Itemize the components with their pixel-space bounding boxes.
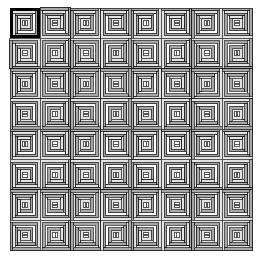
log-cabin-block[interactable] bbox=[101, 129, 131, 159]
log-cabin-block[interactable] bbox=[222, 220, 252, 250]
log-cabin-block[interactable] bbox=[10, 69, 40, 99]
log-cabin-block[interactable] bbox=[131, 220, 161, 250]
log-cabin-block[interactable] bbox=[10, 160, 40, 190]
log-cabin-block[interactable] bbox=[40, 190, 70, 220]
log-cabin-block[interactable] bbox=[10, 220, 40, 250]
log-cabin-block[interactable] bbox=[40, 220, 70, 250]
log-cabin-block[interactable] bbox=[192, 190, 222, 220]
log-cabin-block[interactable] bbox=[131, 190, 161, 220]
log-cabin-block[interactable] bbox=[10, 8, 40, 38]
log-cabin-block[interactable] bbox=[131, 8, 161, 38]
block-log-top bbox=[76, 167, 79, 185]
log-cabin-block[interactable] bbox=[162, 8, 192, 38]
block-log-top bbox=[18, 197, 31, 200]
log-cabin-block[interactable] bbox=[71, 220, 101, 250]
log-cabin-block[interactable] bbox=[101, 220, 131, 250]
block-log-left bbox=[68, 38, 71, 66]
log-cabin-block[interactable] bbox=[161, 38, 191, 68]
block-log-left bbox=[192, 132, 195, 160]
block-log-top bbox=[167, 124, 190, 127]
block-log-top bbox=[15, 195, 33, 198]
log-cabin-block[interactable] bbox=[131, 38, 161, 68]
log-cabin-block[interactable] bbox=[40, 159, 70, 189]
log-cabin-block[interactable] bbox=[71, 99, 101, 129]
block-log-left bbox=[141, 119, 154, 122]
block-center-bar bbox=[83, 53, 88, 55]
block-log-left bbox=[66, 101, 69, 124]
log-cabin-block[interactable] bbox=[101, 99, 131, 129]
log-cabin-block[interactable] bbox=[131, 99, 161, 129]
log-cabin-block[interactable] bbox=[40, 38, 70, 68]
log-cabin-block[interactable] bbox=[162, 69, 192, 99]
log-cabin-block[interactable] bbox=[192, 69, 222, 99]
log-cabin-block[interactable] bbox=[222, 69, 252, 99]
log-cabin-block[interactable] bbox=[162, 129, 192, 159]
log-cabin-block[interactable] bbox=[131, 69, 161, 99]
log-cabin-block[interactable] bbox=[10, 99, 40, 129]
log-cabin-block[interactable] bbox=[161, 190, 191, 220]
log-cabin-block[interactable] bbox=[10, 190, 40, 220]
log-cabin-block[interactable] bbox=[222, 129, 252, 159]
block-center-bar bbox=[174, 204, 179, 206]
block-log-top bbox=[199, 137, 212, 140]
log-cabin-block[interactable] bbox=[222, 99, 252, 129]
block-center-bar bbox=[55, 172, 57, 177]
log-cabin-block[interactable] bbox=[101, 159, 131, 189]
block-log-top bbox=[197, 195, 215, 198]
log-cabin-block[interactable] bbox=[40, 8, 70, 38]
log-cabin-block[interactable] bbox=[101, 190, 131, 220]
block-log-left bbox=[194, 248, 222, 251]
block-log-left bbox=[73, 187, 101, 190]
log-cabin-block[interactable] bbox=[192, 99, 222, 129]
block-center-bar bbox=[83, 234, 88, 236]
log-cabin-block[interactable] bbox=[10, 129, 40, 159]
log-cabin-block[interactable] bbox=[40, 99, 70, 129]
block-log-top bbox=[131, 69, 159, 72]
log-cabin-block[interactable] bbox=[131, 129, 161, 159]
log-cabin-block[interactable] bbox=[192, 220, 222, 250]
log-cabin-block[interactable] bbox=[161, 99, 191, 129]
log-cabin-block[interactable] bbox=[71, 8, 101, 38]
log-cabin-block[interactable] bbox=[222, 8, 252, 38]
log-cabin-block[interactable] bbox=[192, 129, 222, 159]
log-cabin-block[interactable] bbox=[192, 38, 222, 68]
block-log-top bbox=[187, 11, 190, 34]
block-center-bar bbox=[206, 21, 208, 26]
log-cabin-block[interactable] bbox=[71, 160, 101, 190]
log-cabin-block[interactable] bbox=[101, 69, 131, 99]
log-cabin-block[interactable] bbox=[10, 38, 40, 68]
log-cabin-block[interactable] bbox=[192, 8, 222, 38]
log-cabin-block[interactable] bbox=[40, 69, 70, 99]
block-log-left bbox=[187, 223, 190, 246]
log-cabin-block[interactable] bbox=[101, 8, 131, 38]
log-cabin-block[interactable] bbox=[192, 159, 222, 189]
block-log-left bbox=[126, 162, 129, 185]
log-cabin-block[interactable] bbox=[222, 190, 252, 220]
block-log-left bbox=[60, 46, 63, 59]
block-log-top bbox=[250, 69, 253, 97]
block-log-left bbox=[199, 139, 202, 152]
block-center-bar bbox=[236, 112, 238, 117]
log-cabin-block[interactable] bbox=[161, 220, 191, 250]
block-log-left bbox=[139, 200, 142, 213]
block-log-left bbox=[131, 192, 134, 220]
block-log-left bbox=[136, 16, 139, 34]
log-cabin-block[interactable] bbox=[71, 129, 101, 159]
log-cabin-block[interactable] bbox=[71, 38, 101, 68]
log-cabin-block[interactable] bbox=[101, 38, 131, 68]
log-cabin-block[interactable] bbox=[131, 160, 161, 190]
block-center-bar bbox=[144, 234, 149, 236]
block-center-bar bbox=[114, 83, 119, 85]
block-log-left bbox=[139, 182, 157, 185]
block-log-left bbox=[162, 69, 190, 72]
log-cabin-block[interactable] bbox=[161, 159, 191, 189]
block-log-top bbox=[78, 197, 91, 200]
log-cabin-block[interactable] bbox=[222, 159, 252, 189]
block-log-top bbox=[15, 106, 18, 124]
block-log-top bbox=[131, 101, 134, 129]
log-cabin-block[interactable] bbox=[222, 38, 252, 68]
block-log-left bbox=[139, 122, 157, 125]
log-cabin-block[interactable] bbox=[71, 190, 101, 220]
log-cabin-block[interactable] bbox=[40, 129, 70, 159]
log-cabin-block[interactable] bbox=[71, 69, 101, 99]
